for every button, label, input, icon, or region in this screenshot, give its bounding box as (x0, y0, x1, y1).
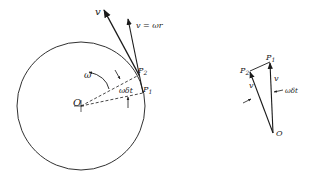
label-omega: ω (84, 70, 92, 80)
left-diagram: v v = ωr ω ωδt P2 P1 O (17, 6, 164, 170)
label-p2: P2 (137, 66, 147, 76)
radius-op1 (81, 93, 143, 106)
omega-rotation-arrow (89, 72, 109, 89)
vector-o-p1 (270, 63, 273, 133)
label-v-eq: v = ωr (136, 21, 164, 30)
label-v-left-right: v (249, 81, 254, 90)
label-origin-right: O (276, 129, 283, 138)
label-p1-right: P1 (265, 53, 275, 63)
label-angle-right: ωδt (285, 87, 298, 95)
velocity-omega-r-arrow (128, 19, 143, 93)
label-p1: P1 (142, 85, 152, 95)
label-v-right-right: v (274, 74, 279, 83)
angle-arrow-right (274, 90, 283, 92)
label-p2-right: P2 (239, 66, 249, 76)
right-diagram: P1 P2 v v ωδt O (239, 53, 298, 138)
segment-p2-p1 (250, 62, 270, 71)
angle-arrow-left (243, 99, 251, 103)
label-v: v (95, 6, 101, 17)
angle-arrow-top (115, 70, 120, 79)
label-origin: O (73, 97, 81, 108)
velocity-v-arrow (104, 10, 139, 75)
figure-canvas: v v = ωr ω ωδt P2 P1 O P1 P2 v v ωδt O (0, 0, 310, 180)
label-angle: ωδt (119, 86, 134, 95)
